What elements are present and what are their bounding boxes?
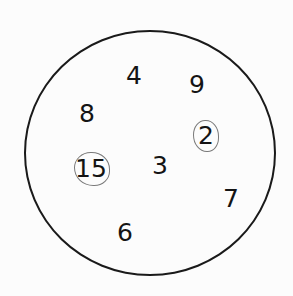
outer-circle — [24, 30, 276, 276]
diagram-canvas: 4 9 8 2 15 3 7 6 — [0, 0, 293, 296]
number-4: 4 — [126, 63, 142, 88]
number-8: 8 — [79, 101, 95, 126]
number-6: 6 — [117, 220, 133, 245]
number-15: 15 — [75, 156, 107, 181]
number-3: 3 — [152, 153, 168, 178]
number-9: 9 — [189, 72, 205, 97]
number-7: 7 — [223, 186, 239, 211]
number-2: 2 — [198, 123, 214, 148]
